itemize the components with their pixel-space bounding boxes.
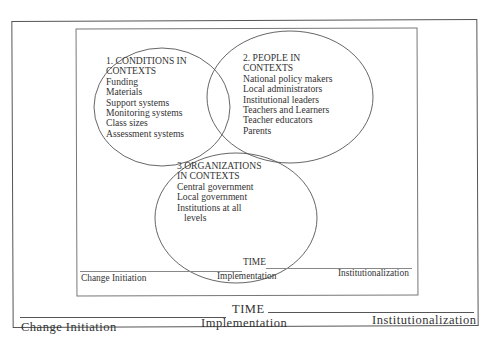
conditions-text-block: 1. CONDITIONS IN CONTEXTS Funding Materi… — [106, 56, 187, 139]
people-text-block: 2. PEOPLE IN CONTEXTS National policy ma… — [243, 53, 333, 136]
outer-time-line-left — [20, 317, 226, 318]
outer-stage-institutionalization: Institutionalization — [372, 313, 476, 328]
inner-stage-implementation: Implementation — [217, 271, 276, 281]
inner-stage-change-initiation: Change Initiation — [81, 273, 146, 283]
inner-stage-institutionalization: Institutionalization — [338, 268, 409, 278]
outer-time-label: TIME — [232, 302, 265, 317]
outer-stage-change-initiation: Change Initiation — [21, 320, 117, 335]
organizations-text-block: 3.ORGANIZATIONS IN CONTEXTS Central gove… — [177, 161, 261, 223]
outer-stage-implementation: Implementation — [201, 316, 287, 331]
organizations-item: levels — [177, 213, 261, 223]
conditions-item: Assessment systems — [106, 129, 187, 139]
inner-time-label: TIME — [243, 257, 266, 267]
people-item: Parents — [243, 126, 333, 136]
